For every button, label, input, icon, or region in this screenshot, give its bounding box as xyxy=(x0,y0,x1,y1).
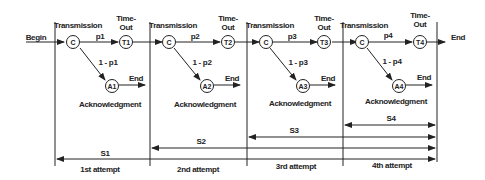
timeout-label-line2: Out xyxy=(120,23,133,32)
prob-p4: p4 xyxy=(384,31,393,40)
transmission-label: Transmission xyxy=(340,21,388,30)
prob-q2: 1 - p2 xyxy=(192,58,211,67)
timeout-label-line2: Out xyxy=(318,23,331,32)
span-s1: S1 xyxy=(100,149,109,158)
begin-label: Begin xyxy=(26,33,47,42)
attempt-2-label: 2nd attempt xyxy=(177,165,219,174)
attempt-3-label: 3rd attempt xyxy=(276,162,316,171)
prob-q4: 1 - p4 xyxy=(382,57,401,66)
node-c3: C xyxy=(259,35,273,49)
node-c1: C xyxy=(66,35,80,49)
timeout-label-line1: Time- xyxy=(116,14,136,23)
prob-p2: p2 xyxy=(191,32,200,41)
node-t4: T4 xyxy=(413,35,427,49)
prob-q1: 1 - p1 xyxy=(98,58,117,67)
node-t3: T3 xyxy=(317,35,331,49)
retransmission-diagram: Begin End Transmission Time- Out p1 1 - … xyxy=(0,0,485,180)
node-a2: A2 xyxy=(200,79,214,93)
timeout-label-line1: Time- xyxy=(410,11,430,20)
transmission-label: Transmission xyxy=(149,21,197,30)
ack-label-4: Acknowledgment xyxy=(365,97,427,106)
ack-label-2: Acknowledgment xyxy=(174,100,236,109)
node-t1: T1 xyxy=(119,35,133,49)
timeout-label-line2: Out xyxy=(414,20,427,29)
timeout-label-line1: Time- xyxy=(218,14,238,23)
attempt-4-label: 4th attempt xyxy=(372,161,412,170)
node-t2: T2 xyxy=(221,35,235,49)
prob-p3: p3 xyxy=(288,32,297,41)
span-s4: S4 xyxy=(386,114,395,123)
end-label-2: End xyxy=(225,74,239,83)
attempt-1-label: 1st attempt xyxy=(80,165,119,174)
span-s3: S3 xyxy=(289,126,298,135)
timeout-label-line1: Time- xyxy=(314,14,334,23)
prob-q3: 1 - p3 xyxy=(288,58,307,67)
end-label-3: End xyxy=(321,74,335,83)
ack-label-1: Acknowledgment xyxy=(79,100,141,109)
transmission-label: Transmission xyxy=(54,21,102,30)
end-label-4: End xyxy=(417,73,431,82)
node-c2: C xyxy=(162,35,176,49)
prob-p1: p1 xyxy=(96,32,105,41)
node-a1: A1 xyxy=(105,79,119,93)
span-s2: S2 xyxy=(196,137,205,146)
transmission-label: Transmission xyxy=(246,21,294,30)
final-end-label: End xyxy=(451,33,465,42)
timeout-label-line2: Out xyxy=(222,23,235,32)
node-a3: A3 xyxy=(296,79,310,93)
ack-label-3: Acknowledgment xyxy=(269,99,331,108)
end-label-1: End xyxy=(129,74,143,83)
node-c4: C xyxy=(355,35,369,49)
node-a4: A4 xyxy=(392,79,406,93)
